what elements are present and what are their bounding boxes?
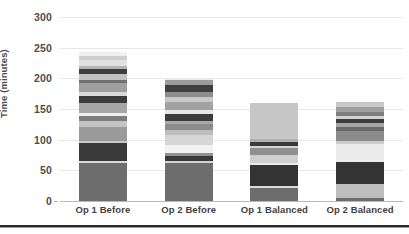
bar-2-segment-6 xyxy=(165,135,213,145)
y-tick-label-100: 100 xyxy=(34,134,52,146)
bar-4-segment-6 xyxy=(336,131,384,141)
bottom-rule-shadow xyxy=(0,227,409,228)
x-axis-label-4: Op 2 Balanced xyxy=(305,204,409,215)
bar-1-segment-9 xyxy=(79,103,127,113)
bar-3-segment-6 xyxy=(250,148,298,155)
y-tick-mark-0 xyxy=(54,201,58,202)
bar-3-segment-3 xyxy=(250,165,298,185)
bar-stack-3 xyxy=(250,103,298,201)
chart-container: 050100150200250300 Time (minutes) Op 1 B… xyxy=(0,0,409,234)
bar-stack-4 xyxy=(336,102,384,201)
bar-1-segment-1 xyxy=(79,163,127,201)
bar-3-segment-10 xyxy=(250,103,298,139)
bar-2-segment-5 xyxy=(165,145,213,154)
bar-stack-1 xyxy=(79,52,127,201)
y-tick-label-300: 300 xyxy=(34,11,52,23)
bar-4-segment-4 xyxy=(336,144,384,162)
bar-2-segment-10 xyxy=(165,114,213,121)
bar-2-segment-12 xyxy=(165,102,213,111)
bar-1-segment-5 xyxy=(79,127,127,140)
bar-3-segment-5 xyxy=(250,155,298,163)
bar-4-segment-2 xyxy=(336,184,384,197)
bar-3-segment-1 xyxy=(250,188,298,201)
y-axis-title: Time (minutes) xyxy=(0,49,9,118)
bar-4-segment-1 xyxy=(336,198,384,201)
y-tick-label-50: 50 xyxy=(40,164,52,176)
bar-2-segment-1 xyxy=(165,163,213,201)
bar-1-segment-10 xyxy=(79,96,127,103)
bar-2-segment-15 xyxy=(165,85,213,92)
y-tick-label-200: 200 xyxy=(34,72,52,84)
bar-1-segment-3 xyxy=(79,143,127,160)
bar-4-segment-3 xyxy=(336,162,384,184)
bar-1-segment-12 xyxy=(79,83,127,92)
y-tick-label-150: 150 xyxy=(34,103,52,115)
y-tick-label-250: 250 xyxy=(34,42,52,54)
y-axis: 050100150200250300 xyxy=(0,0,60,234)
bar-stack-2 xyxy=(165,78,213,201)
bars-layer: Op 1 BeforeOp 2 BeforeOp 1 BalancedOp 2 … xyxy=(60,0,403,234)
